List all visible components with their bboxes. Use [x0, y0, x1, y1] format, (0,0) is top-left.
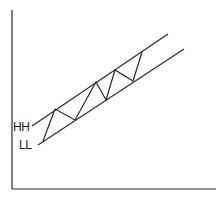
channel-diagram: [0, 0, 220, 197]
hh-label: HH: [13, 121, 29, 133]
price-zigzag: [43, 52, 142, 141]
ll-label: LL: [19, 139, 31, 151]
upper-trendline: [32, 34, 168, 126]
lower-trendline: [38, 49, 184, 145]
